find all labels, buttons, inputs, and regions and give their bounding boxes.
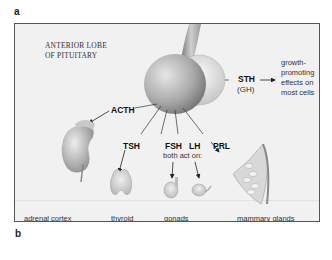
adrenal-kidney-illustration: [62, 120, 95, 182]
pituitary-gland: [144, 24, 225, 114]
thyroid-illustration: [110, 170, 131, 195]
gonad-note: both act on:: [163, 151, 202, 161]
title-line-2: OF PITUITARY: [45, 51, 107, 61]
diagram-frame: ANTERIOR LOBE OF PITUITARY ACTH TSH FSH …: [14, 23, 320, 222]
sth-effect-line: growth-: [281, 58, 314, 68]
hormone-gh: (GH): [237, 85, 254, 95]
label-thyroid: thyroid: [111, 214, 134, 222]
hormone-fsh: FSH: [165, 141, 182, 151]
hormone-prl: PRL: [213, 141, 230, 151]
title-line-1: ANTERIOR LOBE: [45, 41, 107, 51]
sth-effect-line: promoting: [281, 68, 314, 78]
panel-label-b: b: [15, 228, 21, 239]
sth-effect-line: most cells: [281, 88, 314, 98]
panel-label-a: a: [14, 6, 20, 17]
anterior-lobe-title: ANTERIOR LOBE OF PITUITARY: [45, 41, 107, 61]
label-mammary-glands: mammary glands: [237, 214, 295, 222]
hormone-lh: LH: [189, 141, 200, 151]
sth-effect-line: effects on: [281, 78, 314, 88]
sth-effect-text: growth- promoting effects on most cells: [281, 58, 314, 98]
gonads-illustration: [164, 177, 211, 198]
hormone-acth: ACTH: [111, 105, 135, 115]
mammary-gland-illustration: [233, 144, 268, 204]
label-gonads: gonads: [164, 214, 189, 222]
label-adrenal-cortex: adrenal cortex: [24, 214, 72, 222]
hormone-tsh: TSH: [123, 141, 140, 151]
hormone-sth: STH: [238, 74, 255, 84]
